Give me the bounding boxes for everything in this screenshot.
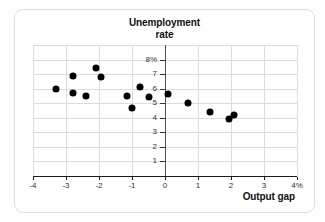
y-tick-label: 4 bbox=[33, 114, 157, 122]
grid-line-vertical bbox=[264, 45, 265, 176]
x-tick-label: 0 bbox=[153, 182, 177, 190]
data-point bbox=[206, 108, 213, 115]
x-tick-mark bbox=[198, 177, 199, 180]
x-tick-mark bbox=[231, 177, 232, 180]
page-background: Unemployment rate 8%7654321-4-3-2-101234… bbox=[0, 0, 325, 222]
y-tick-mark bbox=[160, 74, 165, 75]
y-tick-mark bbox=[160, 118, 165, 119]
chart-title-line2: rate bbox=[15, 29, 314, 41]
x-tick-mark bbox=[297, 177, 298, 180]
x-tick-label: -2 bbox=[87, 182, 111, 190]
data-point bbox=[129, 104, 136, 111]
data-point bbox=[124, 92, 131, 99]
y-tick-mark bbox=[160, 60, 165, 61]
chart-title-line1: Unemployment bbox=[15, 17, 314, 29]
y-tick-label: 3 bbox=[33, 128, 157, 136]
grid-line-vertical bbox=[231, 45, 232, 176]
x-axis-label: Output gap bbox=[243, 191, 295, 202]
y-tick-label: 5 bbox=[33, 99, 157, 107]
x-tick-label: 3 bbox=[252, 182, 276, 190]
data-point bbox=[53, 85, 60, 92]
data-point bbox=[69, 72, 76, 79]
grid-line-vertical bbox=[33, 45, 34, 176]
x-tick-label: -1 bbox=[120, 182, 144, 190]
x-tick-label: -4 bbox=[21, 182, 45, 190]
data-point bbox=[165, 91, 172, 98]
y-tick-mark bbox=[160, 103, 165, 104]
x-tick-mark bbox=[66, 177, 67, 180]
data-point bbox=[231, 111, 238, 118]
zero-axis-line bbox=[165, 45, 166, 176]
chart-card: Unemployment rate 8%7654321-4-3-2-101234… bbox=[14, 9, 315, 213]
y-tick-label: 8% bbox=[33, 56, 157, 64]
data-point bbox=[69, 90, 76, 97]
y-tick-label: 1 bbox=[33, 157, 157, 165]
x-tick-mark bbox=[33, 177, 34, 180]
plot-area: 8%7654321-4-3-2-101234% bbox=[33, 45, 297, 177]
data-point bbox=[92, 65, 99, 72]
x-tick-label: 1 bbox=[186, 182, 210, 190]
x-tick-label: 2 bbox=[219, 182, 243, 190]
data-point bbox=[82, 92, 89, 99]
y-tick-mark bbox=[160, 147, 165, 148]
x-tick-label: 4% bbox=[285, 182, 309, 190]
x-tick-label: -3 bbox=[54, 182, 78, 190]
x-tick-mark bbox=[132, 177, 133, 180]
grid-line-vertical bbox=[99, 45, 100, 176]
x-tick-mark bbox=[264, 177, 265, 180]
y-tick-label: 2 bbox=[33, 143, 157, 151]
y-tick-mark bbox=[160, 89, 165, 90]
data-point bbox=[137, 84, 144, 91]
grid-line-vertical bbox=[297, 45, 298, 176]
x-tick-mark bbox=[165, 177, 166, 180]
grid-line-vertical bbox=[66, 45, 67, 176]
grid-line-vertical bbox=[198, 45, 199, 176]
chart-title: Unemployment rate bbox=[15, 17, 314, 40]
y-tick-mark bbox=[160, 161, 165, 162]
x-tick-mark bbox=[99, 177, 100, 180]
y-tick-mark bbox=[160, 132, 165, 133]
data-point bbox=[97, 74, 104, 81]
data-point bbox=[145, 94, 152, 101]
data-point bbox=[185, 100, 192, 107]
